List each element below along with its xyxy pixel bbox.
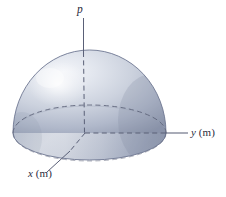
figure-hemisphere-diagram: p y (m) x (m) bbox=[0, 0, 226, 197]
y-axis-label-unit: (m) bbox=[199, 126, 215, 138]
y-axis-label: y (m) bbox=[191, 127, 215, 138]
hemisphere-body bbox=[2, 50, 186, 166]
x-axis-label: x (m) bbox=[28, 168, 52, 179]
x-axis-label-unit: (m) bbox=[36, 167, 52, 179]
p-axis-label: p bbox=[77, 4, 83, 15]
dome-shadow-right bbox=[118, 74, 186, 166]
dome-highlight-core bbox=[36, 68, 64, 88]
